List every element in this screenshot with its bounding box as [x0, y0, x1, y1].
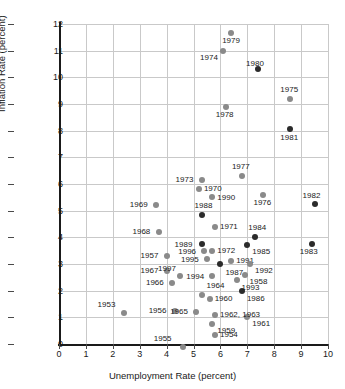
x-axis-tick-label: 10 [320, 350, 336, 359]
data-point-label: 1962, 1963 [220, 311, 260, 319]
x-axis-tick-label: 4 [159, 350, 175, 359]
data-point [164, 253, 170, 259]
data-point [199, 177, 205, 183]
gridline-horizontal [59, 237, 328, 238]
data-point [287, 96, 293, 102]
data-point-label: 1988 [195, 202, 213, 210]
y-axis-tick [8, 344, 14, 345]
data-point [212, 224, 218, 230]
y-axis-tick-label: 2 [43, 287, 63, 296]
data-point-label: 1975 [280, 86, 298, 94]
y-axis-tick [8, 237, 14, 238]
x-axis-tick-label: 2 [105, 350, 121, 359]
data-point-label: 1979 [222, 37, 240, 45]
data-point-label: 1992 [255, 267, 273, 275]
data-point-label: 1994 [186, 273, 204, 281]
gridline-horizontal [59, 104, 328, 105]
gridline-horizontal [59, 211, 328, 212]
gridline-vertical [328, 24, 329, 344]
data-point [199, 292, 205, 298]
data-point-label: 1995 [181, 256, 199, 264]
data-point-label: 1980 [246, 60, 264, 68]
x-axis-title: Unemployment Rate (percent) [0, 370, 345, 381]
y-axis-tick-label: 6 [43, 180, 63, 189]
y-axis-tick [8, 157, 14, 158]
data-point-label: 1967 [141, 267, 159, 275]
data-point [199, 241, 205, 247]
y-axis-tick-label: 10 [43, 73, 63, 82]
data-point-label: 1965 [170, 308, 188, 316]
data-point [234, 277, 240, 283]
gridline-horizontal [59, 77, 328, 78]
data-point-label: 1953 [98, 301, 116, 309]
data-point-label: 1987 [225, 269, 243, 277]
gridline-horizontal [59, 317, 328, 318]
data-point-label: 1982 [303, 192, 321, 200]
x-axis-tick-label: 8 [266, 350, 282, 359]
y-axis-tick [8, 77, 14, 78]
data-point [204, 256, 210, 262]
gridline-horizontal [59, 157, 328, 158]
data-point [121, 310, 127, 316]
data-point [156, 229, 162, 235]
y-axis-title: Inflation Rate (percent) [0, 15, 7, 112]
data-point-label: 1956 [149, 307, 167, 315]
x-axis-tick-label: 5 [186, 350, 202, 359]
y-axis-tick-label: 3 [43, 260, 63, 269]
gridline-horizontal [59, 264, 328, 265]
data-point [201, 248, 207, 254]
data-point-label: 1971 [220, 223, 238, 231]
data-point-label: 1955 [154, 335, 172, 343]
data-point-label: 1964 [207, 282, 225, 290]
gridline-horizontal [59, 51, 328, 52]
data-point-label: 1961 [252, 320, 270, 328]
data-point-label: 1970 [204, 185, 222, 193]
x-axis-tick-label: 9 [293, 350, 309, 359]
x-axis-tick-label: 6 [212, 350, 228, 359]
data-point [177, 273, 183, 279]
data-point [180, 344, 186, 350]
data-point [312, 201, 318, 207]
y-axis-tick [8, 184, 14, 185]
y-axis-tick-label: 9 [43, 100, 63, 109]
data-point-label: 1983 [300, 248, 318, 256]
gridline-horizontal [59, 184, 328, 185]
data-point-label: 1984 [248, 224, 266, 232]
data-point-label: 1960 [215, 295, 233, 303]
data-point [209, 248, 215, 254]
data-point-label: 1966 [146, 279, 164, 287]
data-point [207, 296, 213, 302]
y-axis-tick [8, 24, 14, 25]
y-axis-tick-label: 7 [43, 153, 63, 162]
data-point [212, 312, 218, 318]
data-point-label: 1974 [200, 54, 218, 62]
data-point-label: 1986 [247, 295, 265, 303]
data-point [247, 261, 253, 267]
x-axis-tick-label: 0 [51, 350, 67, 359]
x-axis-tick-label: 7 [239, 350, 255, 359]
data-point-label: 1957 [141, 252, 159, 260]
data-point [223, 104, 229, 110]
gridline-horizontal [59, 291, 328, 292]
plot-area [59, 24, 328, 344]
y-axis-tick [8, 211, 14, 212]
y-axis-tick-label: 8 [43, 127, 63, 136]
x-axis-tick-label: 1 [78, 350, 94, 359]
y-axis-tick-label: 1 [43, 313, 63, 322]
data-point-label: 1977 [232, 163, 250, 171]
y-axis-tick [8, 104, 14, 105]
y-axis-tick-label: 0 [43, 340, 63, 349]
data-point-label: 1993 [242, 284, 260, 292]
y-axis-tick [8, 264, 14, 265]
data-point-label: 1997 [158, 265, 176, 273]
gridline-horizontal [59, 24, 328, 25]
data-point [220, 48, 226, 54]
data-point-label: 1990 [217, 194, 235, 202]
y-axis-tick [8, 51, 14, 52]
data-point-label: 1968 [133, 228, 151, 236]
data-point [199, 212, 205, 218]
y-axis-tick-label: 4 [43, 233, 63, 242]
data-point-label: 1972 [217, 247, 235, 255]
data-point-label: 1969 [130, 201, 148, 209]
y-axis-tick [8, 291, 14, 292]
